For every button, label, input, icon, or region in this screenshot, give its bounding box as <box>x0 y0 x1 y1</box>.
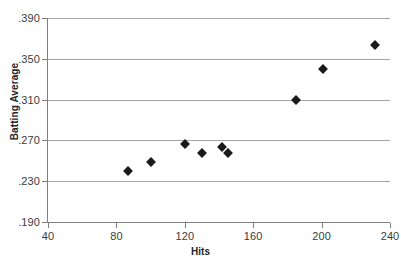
x-axis-tick <box>390 223 391 228</box>
x-axis-title: Hits <box>0 246 401 257</box>
x-axis-tick-label: 120 <box>175 230 194 242</box>
y-axis-tick-label: .350 <box>0 53 40 65</box>
x-axis-tick <box>253 223 254 228</box>
x-axis-tick-label: 80 <box>110 230 122 242</box>
y-axis-tick-label: .190 <box>0 216 40 228</box>
y-axis-tick <box>42 100 48 101</box>
x-axis-tick-label: 160 <box>244 230 263 242</box>
y-axis-tick-labels: .190.230.270.310.350.390 <box>0 0 40 265</box>
data-point <box>197 148 207 158</box>
data-point <box>291 95 301 105</box>
gridline <box>48 18 390 19</box>
gridline <box>48 140 390 141</box>
y-axis-tick-label: .390 <box>0 12 40 24</box>
scatter-chart: .190.230.270.310.350.390 Batting Average… <box>0 0 401 265</box>
x-axis-tick <box>185 223 186 228</box>
data-point <box>123 166 133 176</box>
y-axis-title: Batting Average <box>9 42 20 162</box>
x-axis-tick-label: 200 <box>312 230 331 242</box>
gridline <box>48 59 390 60</box>
y-axis-tick <box>42 59 48 60</box>
x-axis-tick <box>116 223 117 228</box>
x-axis-tick <box>48 223 49 228</box>
y-axis-tick <box>42 181 48 182</box>
y-axis-tick-label: .230 <box>0 175 40 187</box>
data-point <box>318 64 328 74</box>
x-axis-tick-label: 40 <box>42 230 54 242</box>
gridline <box>48 100 390 101</box>
y-axis-tick <box>42 140 48 141</box>
plot-area <box>48 18 390 222</box>
x-axis-tick-label: 240 <box>381 230 400 242</box>
y-axis-tick <box>42 18 48 19</box>
y-axis-tick-label: .270 <box>0 134 40 146</box>
x-axis-tick <box>322 223 323 228</box>
data-point <box>146 157 156 167</box>
gridline <box>48 181 390 182</box>
data-point <box>370 40 380 50</box>
y-axis-tick-label: .310 <box>0 94 40 106</box>
x-axis-line <box>48 222 390 223</box>
